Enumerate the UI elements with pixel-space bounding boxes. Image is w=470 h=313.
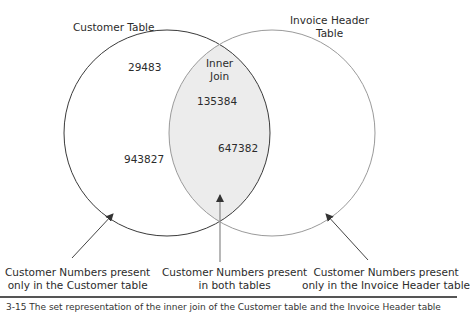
intersection-value-1: 135384 [197,95,237,108]
invoice-header-label-line2: Table [290,27,369,40]
middle-callout-line2: in both tables [162,279,307,292]
right-callout-arrow [326,214,368,260]
customer-only-value-2: 943827 [124,153,164,166]
invoice-header-label-line1: Invoice Header [290,14,369,27]
customer-only-value-1: 29483 [128,61,161,74]
inner-join-label-line1: Inner [206,57,233,70]
left-callout-text: Customer Numbers present only in the Cus… [5,266,150,292]
right-callout-line1: Customer Numbers present [302,266,470,279]
middle-callout-text: Customer Numbers present in both tables [162,266,307,292]
intersection-value-2: 647382 [218,142,258,155]
customer-table-label: Customer Table [73,21,155,34]
middle-callout-line1: Customer Numbers present [162,266,307,279]
left-callout-line1: Customer Numbers present [5,266,150,279]
left-callout-line2: only in the Customer table [5,279,150,292]
right-callout-line2: only in the Invoice Header table [302,279,470,292]
figure-caption: 3-15 The set representation of the inner… [6,302,441,313]
intersection-region [169,30,375,236]
right-callout-text: Customer Numbers present only in the Inv… [302,266,470,292]
left-callout-arrow [72,214,113,258]
invoice-header-label: Invoice Header Table [290,14,369,40]
inner-join-label: Inner Join [206,57,233,83]
inner-join-label-line2: Join [206,70,233,83]
caption-divider [0,296,457,298]
